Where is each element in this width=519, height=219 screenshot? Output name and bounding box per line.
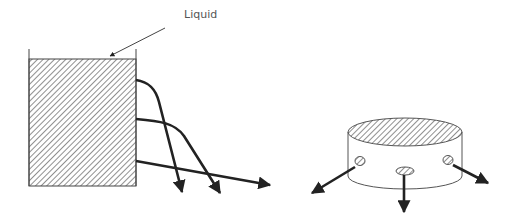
orifice-left — [355, 157, 365, 166]
orifice-right — [443, 156, 453, 165]
orifice-front — [396, 167, 414, 175]
diagram-canvas: Liquid — [0, 0, 519, 219]
liquid-fill — [29, 59, 136, 186]
cylinder-top-liquid — [348, 118, 462, 146]
liquid-label: Liquid — [184, 8, 217, 21]
container-diagram: Liquid — [29, 8, 270, 193]
jet-left-arrow — [312, 167, 355, 193]
jet-top-arrow — [136, 80, 182, 192]
jet-middle-arrow — [136, 119, 220, 193]
cylinder-diagram — [312, 118, 488, 212]
liquid-leader-arrow — [110, 28, 165, 56]
